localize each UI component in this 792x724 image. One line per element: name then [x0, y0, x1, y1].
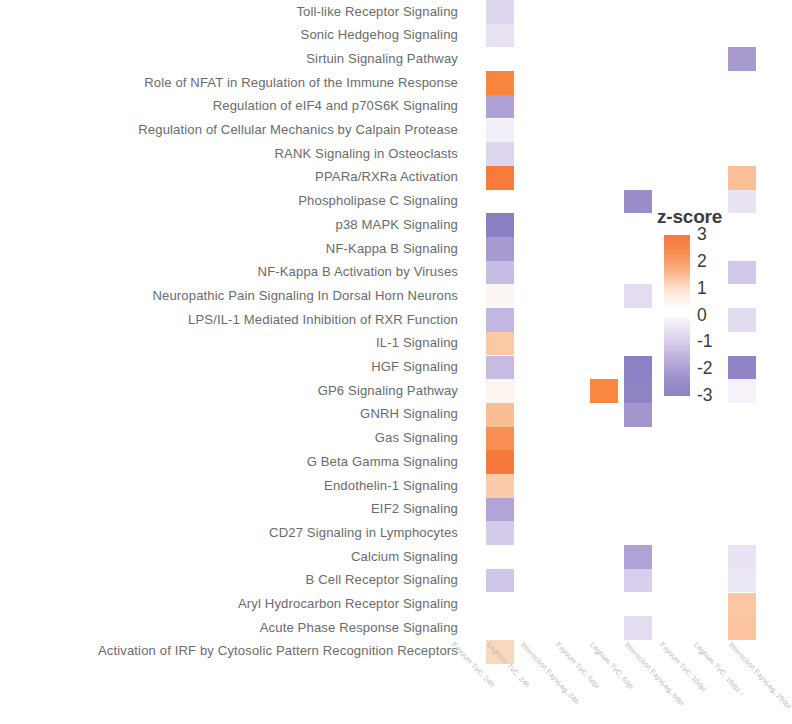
- heatmap-cell: [486, 213, 514, 237]
- row-label: Regulation of Cellular Mechanics by Calp…: [0, 123, 458, 137]
- heatmap-cell: [486, 71, 514, 95]
- row-label: Endothelin-1 Signaling: [0, 479, 458, 493]
- row-label: LPS/IL-1 Mediated Inhibition of RXR Func…: [0, 313, 458, 327]
- heatmap-cell: [486, 0, 514, 24]
- heatmap-cell: [728, 569, 756, 593]
- heatmap-cell: [486, 166, 514, 190]
- row-label: Calcium Signaling: [0, 550, 458, 564]
- legend: z-score 3210-1-2-3: [655, 206, 737, 406]
- row-label: IL-1 Signaling: [0, 336, 458, 350]
- heatmap-cell: [486, 332, 514, 356]
- heatmap-cell: [486, 498, 514, 522]
- heatmap-cell: [486, 95, 514, 119]
- row-label: CD27 Signaling in Lymphocytes: [0, 526, 458, 540]
- heatmap-cell: [486, 261, 514, 285]
- column-label: Interaction FayvLeg, 24h: [519, 641, 580, 706]
- column-label: Interaction FayvLeg, 10dpi: [727, 641, 792, 710]
- heatmap-cell: [486, 450, 514, 474]
- row-label: Phospholipase C Signaling: [0, 194, 458, 208]
- legend-tick-label: -1: [697, 331, 731, 352]
- heatmap-cell: [486, 474, 514, 498]
- row-label: GNRH Signaling: [0, 407, 458, 421]
- heatmap-cell: [486, 142, 514, 166]
- row-label: NF-Kappa B Activation by Viruses: [0, 265, 458, 279]
- row-label: Toll-like Receptor Signaling: [0, 5, 458, 19]
- heatmap-cell: [624, 569, 652, 593]
- legend-tick-label: 1: [697, 278, 731, 299]
- heatmap-cell: [486, 569, 514, 593]
- heatmap-cell: [486, 308, 514, 332]
- row-label: Activation of IRF by Cytosolic Pattern R…: [0, 644, 458, 658]
- heatmap-cell: [486, 521, 514, 545]
- heatmap-cell: [486, 284, 514, 308]
- legend-tick-label: 0: [697, 305, 731, 326]
- row-label: Neuropathic Pain Signaling In Dorsal Hor…: [0, 289, 458, 303]
- heatmap-cell: [624, 545, 652, 569]
- row-label: Regulation of eIF4 and p70S6K Signaling: [0, 99, 458, 113]
- row-label: PPARa/RXRa Activation: [0, 170, 458, 184]
- row-label: G Beta Gamma Signaling: [0, 455, 458, 469]
- heatmap-cell: [486, 403, 514, 427]
- heatmap-cell: [624, 190, 652, 214]
- heatmap-cell: [590, 379, 618, 403]
- row-label: Role of NFAT in Regulation of the Immune…: [0, 76, 458, 90]
- heatmap-cell: [624, 616, 652, 640]
- heatmap-cell: [728, 166, 756, 190]
- heatmap-cell: [624, 284, 652, 308]
- row-label: B Cell Receptor Signaling: [0, 573, 458, 587]
- row-label: EIF2 Signaling: [0, 502, 458, 516]
- legend-tick-label: 2: [697, 251, 731, 272]
- heatmap-cell: [486, 379, 514, 403]
- heatmap-cell: [728, 47, 756, 71]
- heatmap-cell: [624, 356, 652, 380]
- heatmap-cell: [486, 237, 514, 261]
- column-label: Interaction FayvLeg, 6dpi: [623, 641, 686, 707]
- row-label: RANK Signaling in Osteoclasts: [0, 147, 458, 161]
- column-label-axis: Fayoum TvC, 24hLeghorn TvC, 24hInteracti…: [486, 641, 736, 724]
- legend-tick-label: 3: [697, 224, 731, 245]
- heatmap-cell: [624, 403, 652, 427]
- heatmap-cell: [728, 545, 756, 569]
- row-label: NF-Kappa B Signaling: [0, 242, 458, 256]
- row-label: Sonic Hedgehog Signaling: [0, 28, 458, 42]
- heatmap-cell: [486, 356, 514, 380]
- row-label-axis: Toll-like Receptor SignalingSonic Hedgeh…: [0, 0, 470, 640]
- heatmap-cell: [728, 593, 756, 617]
- row-label: HGF Signaling: [0, 360, 458, 374]
- heatmap-cell: [486, 119, 514, 143]
- row-label: GP6 Signaling Pathway: [0, 384, 458, 398]
- row-label: Acute Phase Response Signaling: [0, 621, 458, 635]
- heatmap-cell: [486, 427, 514, 451]
- heatmap-cell: [486, 24, 514, 48]
- heatmap-grid: [486, 0, 656, 640]
- row-label: Sirtuin Signaling Pathway: [0, 52, 458, 66]
- heatmap-cell: [624, 379, 652, 403]
- heatmap-cell: [728, 616, 756, 640]
- legend-colorbar: [664, 235, 690, 396]
- row-label: p38 MAPK Signaling: [0, 218, 458, 232]
- row-label: Aryl Hydrocarbon Receptor Signaling: [0, 597, 458, 611]
- row-label: Gas Signaling: [0, 431, 458, 445]
- legend-tick-label: -2: [697, 358, 731, 379]
- legend-tick-label: -3: [697, 385, 731, 406]
